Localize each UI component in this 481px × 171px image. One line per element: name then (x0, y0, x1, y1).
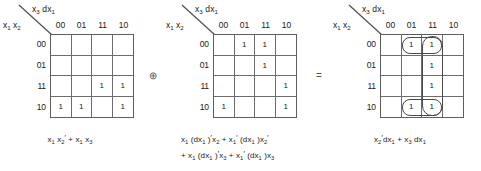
kmap-3-left-label: x1 x2 (333, 20, 351, 31)
kmap-2-col-header: 10 (276, 20, 297, 30)
kmap-2-caption-line: x1 (dx1 )′x2 + x1′ (dx1 )x2′ (181, 132, 331, 148)
kmap-3: x3 dx1 x1 x2 00 01 11 10 00 01 11 10 1 1… (330, 0, 470, 171)
kmap-3-column-headers: 00 01 11 10 (380, 20, 464, 30)
kmap-2-row-header: 01 (185, 55, 209, 76)
kmap-1-caption: x1 x2′ + x1 x3 (0, 132, 140, 148)
kmap-1-grid: 1 1 1 1 1 (50, 34, 134, 118)
kmap-cell[interactable] (51, 35, 72, 56)
kmap-3-col-header: 00 (380, 20, 401, 30)
kmap-cell[interactable] (72, 56, 93, 77)
kmap-1-caption-line: x1 x2′ + x1 x3 (0, 132, 140, 148)
kmap-1-row-header: 00 (22, 34, 46, 55)
kmap-3-grid: 1 1 1 1 1 1 (380, 34, 464, 118)
kmap-cell[interactable] (92, 35, 113, 56)
equals-operator-icon: = (316, 70, 322, 81)
kmap-3-row-header: 11 (352, 76, 376, 97)
kmap-cell[interactable]: 1 (422, 76, 443, 97)
kmap-2-col-header: 00 (213, 20, 234, 30)
kmap-cell[interactable]: 1 (276, 97, 297, 118)
kmap-cell[interactable] (443, 35, 464, 56)
kmap-3-col-header: 01 (401, 20, 422, 30)
kmap-2-top-label: x3 dx1 (195, 4, 218, 15)
kmap-cell[interactable] (255, 97, 276, 118)
kmap-3-top-label: x3 dx1 (362, 4, 385, 15)
kmap-1-row-headers: 00 01 11 10 (22, 34, 46, 118)
kmap-cell[interactable]: 1 (255, 35, 276, 56)
kmap-cell[interactable] (72, 76, 93, 97)
kmap-cell[interactable]: 1 (402, 35, 423, 56)
kmap-cell[interactable] (381, 97, 402, 118)
kmap-cell[interactable]: 1 (214, 97, 235, 118)
kmap-cell[interactable] (113, 35, 134, 56)
kmap-cell[interactable]: 1 (92, 76, 113, 97)
kmap-2-row-header: 10 (185, 97, 209, 118)
kmap-cell[interactable] (443, 97, 464, 118)
kmap-cell[interactable] (51, 76, 72, 97)
kmap-cell[interactable]: 1 (422, 56, 443, 77)
kmap-2-column-headers: 00 01 11 10 (213, 20, 297, 30)
kmap-cell[interactable] (235, 76, 256, 97)
kmap-2-col-header: 11 (255, 20, 276, 30)
kmap-2-left-label: x1 x2 (166, 20, 184, 31)
kmap-cell[interactable]: 1 (422, 97, 443, 118)
kmap-cell[interactable] (276, 35, 297, 56)
kmap-cell[interactable]: 1 (422, 35, 443, 56)
kmap-1-col-header: 01 (71, 20, 92, 30)
kmap-cell[interactable]: 1 (235, 35, 256, 56)
kmap-3-row-header: 01 (352, 55, 376, 76)
kmap-2-grid: 1 1 1 1 1 1 (213, 34, 297, 118)
kmap-cell[interactable] (381, 56, 402, 77)
kmap-1-col-header: 00 (50, 20, 71, 30)
xor-operator-icon: ⊕ (149, 70, 157, 81)
kmap-1-top-label: x3 dx1 (32, 4, 55, 15)
kmap-cell[interactable] (402, 56, 423, 77)
kmap-cell[interactable]: 1 (276, 76, 297, 97)
kmap-cell[interactable]: 1 (51, 97, 72, 118)
kmap-1-row-header: 01 (22, 55, 46, 76)
kmap-cell[interactable] (92, 97, 113, 118)
kmap-cell[interactable]: 1 (113, 76, 134, 97)
kmap-cell[interactable] (255, 76, 276, 97)
kmap-cell[interactable] (235, 97, 256, 118)
kmap-cell[interactable]: 1 (402, 97, 423, 118)
kmap-cell[interactable] (381, 35, 402, 56)
kmap-cell[interactable]: 1 (72, 97, 93, 118)
kmap-cell[interactable] (113, 56, 134, 77)
kmap-3-row-header: 10 (352, 97, 376, 118)
kmap-cell[interactable] (214, 56, 235, 77)
kmap-1-col-header: 10 (113, 20, 134, 30)
kmap-cell[interactable] (235, 56, 256, 77)
kmap-2-row-headers: 00 01 11 10 (185, 34, 209, 118)
kmap-cell[interactable] (72, 35, 93, 56)
kmap-1-row-header: 11 (22, 76, 46, 97)
kmap-3-caption: x2′dx1 + x3 dx1 (330, 132, 470, 148)
kmap-3-col-header: 11 (422, 20, 443, 30)
kmap-cell[interactable] (443, 76, 464, 97)
kmap-cell[interactable] (381, 76, 402, 97)
kmap-1-left-label: x1 x2 (3, 20, 21, 31)
kmap-cell[interactable] (92, 56, 113, 77)
kmap-cell[interactable]: 1 (255, 56, 276, 77)
kmap-cell[interactable] (214, 76, 235, 97)
kmap-cell[interactable] (51, 56, 72, 77)
kmap-cell[interactable] (276, 56, 297, 77)
kmap-2-caption: x1 (dx1 )′x2 + x1′ (dx1 )x2′ + x1 (dx1 )… (181, 132, 331, 163)
kmap-3-row-headers: 00 01 11 10 (352, 34, 376, 118)
kmap-cell[interactable] (402, 76, 423, 97)
kmap-1-col-header: 11 (92, 20, 113, 30)
kmap-1: x3 dx1 x1 x2 00 01 11 10 00 01 11 10 1 (0, 0, 140, 171)
kmap-2: x3 dx1 x1 x2 00 01 11 10 00 01 11 10 1 1… (163, 0, 303, 171)
kmap-3-caption-line: x2′dx1 + x3 dx1 (330, 132, 470, 148)
kmap-cell[interactable] (443, 56, 464, 77)
kmap-cell[interactable]: 1 (113, 97, 134, 118)
kmap-1-row-header: 10 (22, 97, 46, 118)
kmap-cell[interactable] (214, 35, 235, 56)
kmap-2-row-header: 11 (185, 76, 209, 97)
kmap-2-col-header: 01 (234, 20, 255, 30)
kmap-2-caption-line: + x1 (dx1 )′x3 + x1′ (dx1 )x3 (181, 148, 331, 164)
kmap-2-row-header: 00 (185, 34, 209, 55)
kmap-3-col-header: 10 (443, 20, 464, 30)
kmap-3-row-header: 00 (352, 34, 376, 55)
kmap-1-column-headers: 00 01 11 10 (50, 20, 134, 30)
figure-canvas: x3 dx1 x1 x2 00 01 11 10 00 01 11 10 1 (0, 0, 481, 171)
